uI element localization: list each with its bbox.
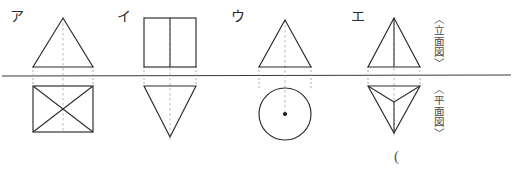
figure-i-group (144, 18, 196, 140)
figure-u-group (259, 20, 311, 140)
figure-u-plan-center-dot (283, 112, 287, 116)
figure-a-group (33, 18, 93, 132)
figure-label-u: ウ (231, 9, 245, 23)
worksheet-page: ア イ ウ エ 〈立面図〉 〈平面図〉 ( (0, 0, 513, 175)
figure-label-a: ア (10, 9, 24, 23)
figure-label-e: エ (351, 9, 365, 23)
figure-e-group (368, 18, 420, 136)
ground-reference-line (2, 75, 511, 76)
plan-view-label: 〈平面図〉 (432, 84, 443, 139)
answer-blank-parenthesis: ( (394, 148, 399, 165)
figure-label-i: イ (117, 9, 131, 23)
elevation-view-label: 〈立面図〉 (432, 14, 443, 69)
